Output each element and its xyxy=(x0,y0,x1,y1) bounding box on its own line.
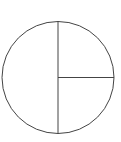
fraction-diagram-svg xyxy=(0,0,121,142)
circle-fraction-diagram xyxy=(0,0,121,142)
